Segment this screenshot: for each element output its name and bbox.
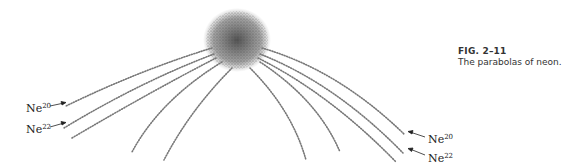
label-right-ne22: Ne22	[428, 150, 453, 165]
trace-right-ne20	[262, 48, 404, 134]
mass-number: 20	[444, 133, 453, 141]
figure-number: FIG. 2–11	[458, 46, 562, 57]
element-symbol: Ne	[428, 133, 444, 146]
label-right-ne20: Ne20	[428, 131, 453, 146]
mass-number: 22	[444, 152, 453, 160]
element-symbol: Ne	[428, 152, 444, 165]
mass-number: 22	[42, 123, 51, 131]
trace-left-3	[72, 58, 216, 138]
neon-parabolas-diagram	[0, 0, 568, 168]
figure-caption: FIG. 2–11 The parabolas of neon.	[458, 46, 562, 68]
trace-right-3	[258, 58, 396, 162]
trace-left-ne22	[64, 54, 214, 128]
element-symbol: Ne	[26, 123, 42, 136]
trace-left-ne20	[66, 48, 212, 106]
trace-left-steep-2	[164, 68, 232, 160]
label-arrows	[50, 102, 425, 156]
mass-number: 20	[42, 102, 51, 110]
caption-text: The parabolas of neon.	[458, 57, 562, 68]
label-left-ne20: Ne20	[26, 100, 51, 115]
trace-right-steep-1	[250, 68, 306, 160]
element-symbol: Ne	[26, 102, 42, 115]
label-left-ne22: Ne22	[26, 121, 51, 136]
